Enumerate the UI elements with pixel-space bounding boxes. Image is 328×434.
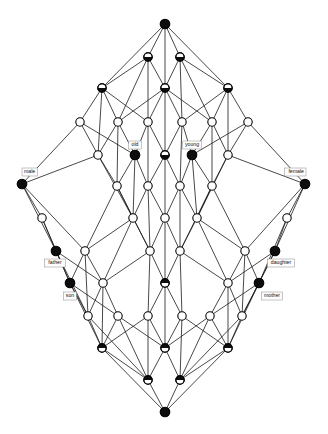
lattice-canvas: maleoldyoungfemalefathersondaughtermothe…	[0, 0, 328, 434]
label-father[interactable]: father	[44, 259, 65, 267]
node-empty	[224, 279, 232, 287]
lattice-node[interactable]	[244, 118, 252, 126]
lattice-node[interactable]	[94, 151, 102, 159]
lattice-node[interactable]	[113, 182, 121, 190]
lattice-node[interactable]	[254, 278, 264, 288]
lattice-edge	[210, 316, 228, 348]
lattice-node[interactable]	[84, 312, 92, 320]
node-empty	[76, 118, 84, 126]
label-male[interactable]: male	[22, 168, 38, 176]
lattice-edge	[85, 251, 88, 316]
lattice-edge	[192, 155, 197, 218]
lattice-node[interactable]	[178, 312, 186, 320]
lattice-edge	[148, 24, 165, 57]
lattice-node[interactable]	[241, 247, 249, 255]
lattice-node[interactable]	[114, 312, 122, 320]
lattice-edge	[148, 155, 165, 186]
node-filled	[130, 150, 140, 160]
lattice-node[interactable]	[300, 179, 310, 189]
lattice-edge	[165, 348, 180, 380]
lattice-node[interactable]	[161, 214, 169, 222]
lattice-node[interactable]	[130, 150, 140, 160]
lattice-node[interactable]	[17, 179, 27, 189]
node-empty	[144, 312, 152, 320]
lattice-node[interactable]	[224, 344, 232, 352]
lattice-node[interactable]	[161, 279, 169, 287]
lattice-node[interactable]	[176, 53, 184, 61]
lattice-node[interactable]	[160, 407, 170, 417]
lattice-node[interactable]	[98, 84, 106, 92]
lattice-node[interactable]	[65, 278, 75, 288]
lattice-node[interactable]	[114, 118, 122, 126]
lattice-edge	[165, 348, 228, 412]
lattice-node[interactable]	[144, 312, 152, 320]
lattice-node[interactable]	[283, 214, 291, 222]
lattice-node[interactable]	[144, 53, 152, 61]
lattice-edge	[88, 283, 103, 316]
lattice-edge	[102, 348, 165, 412]
lattice-node[interactable]	[51, 246, 61, 256]
label-daughter[interactable]: daughter	[267, 259, 294, 267]
lattice-node[interactable]	[144, 376, 152, 384]
node-empty	[144, 118, 152, 126]
lattice-edge	[192, 122, 212, 155]
node-empty	[238, 312, 246, 320]
node-empty	[113, 182, 121, 190]
lattice-node[interactable]	[161, 84, 169, 92]
lattice-node[interactable]	[270, 246, 280, 256]
lattice-node[interactable]	[76, 118, 84, 126]
lattice-edge	[133, 155, 135, 218]
label-old[interactable]: old	[129, 141, 142, 149]
lattice-node[interactable]	[178, 118, 186, 126]
lattice-edge	[180, 122, 182, 186]
lattice-edge	[197, 218, 228, 283]
lattice-node[interactable]	[193, 214, 201, 222]
lattice-edge	[118, 316, 148, 380]
lattice-edge	[165, 24, 180, 57]
label-young[interactable]: young	[183, 141, 202, 149]
node-empty	[94, 151, 102, 159]
label-son[interactable]: son	[64, 292, 77, 300]
lattice-edge	[165, 24, 228, 88]
lattice-node[interactable]	[144, 182, 152, 190]
lattice-edge	[148, 316, 165, 348]
lattice-edge	[192, 122, 248, 155]
node-filled	[187, 150, 197, 160]
lattice-node[interactable]	[98, 344, 106, 352]
lattice-node[interactable]	[161, 344, 169, 352]
lattice-edge	[165, 155, 180, 186]
lattice-node[interactable]	[206, 312, 214, 320]
label-female[interactable]: female	[285, 168, 306, 176]
lattice-node[interactable]	[208, 182, 216, 190]
lattice-node[interactable]	[176, 247, 184, 255]
lattice-edge	[148, 88, 165, 122]
lattice-node[interactable]	[161, 151, 169, 159]
node-filled	[17, 179, 27, 189]
lattice-node[interactable]	[176, 376, 184, 384]
lattice-node[interactable]	[187, 150, 197, 160]
node-empty	[99, 279, 107, 287]
lattice-node[interactable]	[81, 247, 89, 255]
lattice-node[interactable]	[129, 214, 137, 222]
lattice-node[interactable]	[146, 247, 154, 255]
lattice-edge	[148, 122, 165, 155]
lattice-edge	[210, 283, 259, 316]
node-empty	[144, 182, 152, 190]
lattice-node[interactable]	[144, 118, 152, 126]
lattice-node[interactable]	[176, 182, 184, 190]
lattice-edge	[165, 283, 182, 316]
lattice-node[interactable]	[160, 19, 170, 29]
lattice-node[interactable]	[224, 279, 232, 287]
node-empty	[208, 118, 216, 126]
lattice-node[interactable]	[224, 84, 232, 92]
lattice-edge	[228, 122, 248, 155]
lattice-edge	[165, 57, 180, 88]
lattice-edge	[117, 122, 118, 186]
lattice-node[interactable]	[238, 312, 246, 320]
lattice-node[interactable]	[208, 118, 216, 126]
lattice-node[interactable]	[38, 214, 46, 222]
lattice-node[interactable]	[224, 151, 232, 159]
lattice-node[interactable]	[99, 279, 107, 287]
lattice-edge	[148, 283, 165, 316]
label-mother[interactable]: mother	[261, 292, 282, 300]
